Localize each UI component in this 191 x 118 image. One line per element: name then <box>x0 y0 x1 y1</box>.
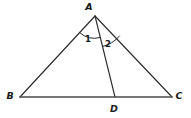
segment-ad <box>95 16 115 97</box>
vertex-label-a: A <box>84 1 92 12</box>
segment-ab <box>20 16 95 97</box>
angle-label-2: 2 <box>105 39 111 49</box>
vertex-label-d: D <box>110 103 118 114</box>
segment-ac <box>95 16 172 97</box>
geometry-diagram: A B C D 1 2 <box>0 0 191 118</box>
angle-label-1: 1 <box>85 34 91 44</box>
triangle-figure-svg: A B C D 1 2 <box>0 0 191 118</box>
vertex-label-b: B <box>6 90 13 101</box>
vertex-label-c: C <box>176 90 183 101</box>
